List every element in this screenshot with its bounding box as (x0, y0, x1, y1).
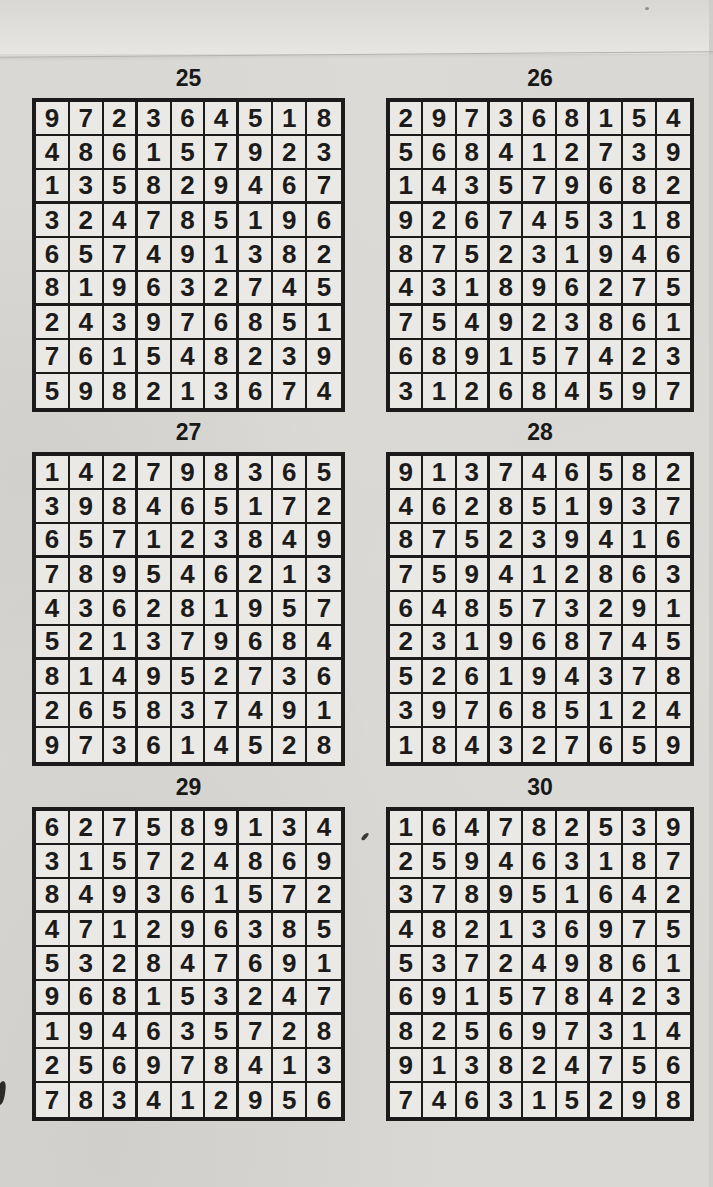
sudoku-cell: 7 (490, 204, 523, 238)
sudoku-cell: 9 (523, 1015, 556, 1049)
sudoku-cell: 2 (172, 845, 206, 879)
sudoku-cell: 2 (623, 981, 656, 1015)
sudoku-cell: 1 (657, 947, 690, 981)
sudoku-cell: 7 (457, 694, 490, 728)
sudoku-cell: 3 (523, 524, 556, 558)
sudoku-cell: 6 (70, 694, 104, 728)
sudoku-cell: 8 (205, 340, 239, 374)
sudoku-cell: 2 (104, 947, 138, 981)
sudoku-cell: 1 (490, 913, 523, 947)
sudoku-cell: 4 (490, 136, 523, 170)
sudoku-cell: 1 (490, 340, 523, 374)
sudoku-cell: 8 (457, 879, 490, 913)
sudoku-cell: 7 (657, 490, 690, 524)
sudoku-cell: 1 (657, 592, 690, 626)
sudoku-cell: 7 (239, 660, 273, 694)
sudoku-cell: 3 (590, 1015, 623, 1049)
sudoku-cell: 7 (557, 728, 590, 762)
sudoku-cell: 4 (423, 592, 456, 626)
sudoku-cell: 1 (104, 340, 138, 374)
puzzle-number: 25 (32, 66, 345, 90)
sudoku-cell: 6 (523, 845, 556, 879)
sudoku-cell: 9 (138, 660, 172, 694)
sudoku-cell: 1 (657, 306, 690, 340)
sudoku-cell: 8 (138, 170, 172, 204)
sudoku-cell: 2 (523, 1049, 556, 1083)
sudoku-cell: 4 (390, 272, 423, 306)
sudoku-cell: 3 (104, 728, 138, 762)
sudoku-cell: 6 (70, 981, 104, 1015)
sudoku-cell: 5 (423, 845, 456, 879)
sudoku-cell: 7 (104, 524, 138, 558)
sudoku-cell: 2 (557, 558, 590, 592)
sudoku-cell: 9 (70, 1015, 104, 1049)
sudoku-cell: 3 (423, 947, 456, 981)
sudoku-cell: 1 (590, 845, 623, 879)
sudoku-cell: 4 (590, 981, 623, 1015)
puzzle-number: 30 (386, 775, 694, 799)
sudoku-cell: 3 (557, 845, 590, 879)
sudoku-cell: 9 (138, 306, 172, 340)
sudoku-cell: 4 (307, 811, 341, 845)
sudoku-cell: 8 (307, 1015, 341, 1049)
paper-top-band (0, 0, 709, 54)
sudoku-cell: 5 (557, 694, 590, 728)
puzzle-number: 28 (386, 420, 694, 444)
sudoku-cell: 9 (172, 456, 206, 490)
sudoku-cell: 4 (490, 558, 523, 592)
sudoku-cell: 6 (590, 170, 623, 204)
sudoku-cell: 4 (205, 728, 239, 762)
puzzle-number: 27 (32, 420, 345, 444)
sudoku-cell: 4 (390, 490, 423, 524)
sudoku-cell: 3 (557, 306, 590, 340)
sudoku-cell: 4 (523, 947, 556, 981)
sudoku-cell: 7 (172, 626, 206, 660)
sudoku-cell: 3 (623, 490, 656, 524)
sudoku-cell: 8 (457, 136, 490, 170)
sudoku-cell: 5 (36, 947, 70, 981)
sudoku-cell: 4 (70, 879, 104, 913)
sudoku-cell: 3 (104, 1083, 138, 1117)
sudoku-cell: 1 (205, 592, 239, 626)
sudoku-cell: 6 (205, 913, 239, 947)
sudoku-cell: 8 (70, 1083, 104, 1117)
sudoku-cell: 1 (273, 558, 307, 592)
sudoku-cell: 9 (390, 456, 423, 490)
sudoku-cell: 5 (390, 947, 423, 981)
sudoku-cell: 3 (390, 879, 423, 913)
sudoku-cell: 7 (590, 626, 623, 660)
sudoku-cell: 7 (390, 306, 423, 340)
sudoku-cell: 9 (457, 558, 490, 592)
sudoku-cell: 7 (239, 272, 273, 306)
sudoku-cell: 4 (390, 913, 423, 947)
sudoku-cell: 9 (104, 879, 138, 913)
sudoku-cell: 7 (390, 1083, 423, 1117)
sudoku-cell: 1 (523, 1083, 556, 1117)
sudoku-cell: 1 (623, 204, 656, 238)
sudoku-cell: 5 (307, 272, 341, 306)
sudoku-cell: 3 (205, 524, 239, 558)
sudoku-cell: 2 (36, 306, 70, 340)
sudoku-cell: 6 (138, 728, 172, 762)
sudoku-cell: 9 (36, 981, 70, 1015)
sudoku-cell: 1 (423, 1049, 456, 1083)
sudoku-cell: 3 (239, 913, 273, 947)
sudoku-cell: 8 (205, 456, 239, 490)
sudoku-cell: 6 (557, 456, 590, 490)
sudoku-cell: 3 (307, 136, 341, 170)
sudoku-cell: 9 (104, 272, 138, 306)
sudoku-cell: 2 (273, 1015, 307, 1049)
sudoku-cell: 6 (104, 1049, 138, 1083)
sudoku-cell: 4 (172, 558, 206, 592)
sudoku-cell: 5 (557, 1083, 590, 1117)
sudoku-cell: 6 (239, 374, 273, 408)
sudoku-cell: 1 (138, 981, 172, 1015)
sudoku-cell: 3 (590, 204, 623, 238)
sudoku-cell: 1 (104, 913, 138, 947)
sudoku-cell: 4 (70, 306, 104, 340)
sudoku-cell: 5 (623, 1049, 656, 1083)
sudoku-cell: 1 (70, 845, 104, 879)
sudoku-cell: 9 (490, 306, 523, 340)
sudoku-cell: 1 (623, 524, 656, 558)
